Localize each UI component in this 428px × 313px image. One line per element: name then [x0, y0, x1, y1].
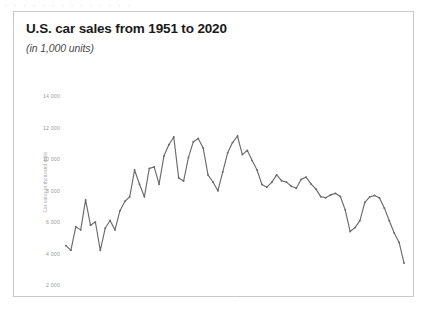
- x-tick-label: 1993: [260, 295, 273, 297]
- data-point: [197, 138, 199, 140]
- data-point: [281, 180, 283, 182]
- data-point: [261, 184, 263, 186]
- data-point: [65, 245, 67, 247]
- y-tick-label: 8 000: [46, 188, 60, 194]
- statistic-chart-card: U.S. car sales from 1951 to 2020 (in 1,0…: [13, 11, 414, 297]
- data-point: [143, 196, 145, 198]
- line-chart-svg: 2 0004 0006 0008 00010 00012 00014 000 1…: [14, 70, 413, 297]
- data-point: [398, 242, 400, 244]
- data-point: [325, 197, 327, 199]
- x-tick-label: 2014: [363, 295, 376, 297]
- data-point: [290, 185, 292, 187]
- x-tick-label: 2017: [377, 295, 390, 297]
- x-tick-label: 1984: [216, 295, 229, 297]
- x-tick-label: 1996: [274, 295, 287, 297]
- card-header: U.S. car sales from 1951 to 2020 (in 1,0…: [14, 12, 413, 54]
- x-tick-label: 1972: [157, 295, 170, 297]
- data-point: [271, 181, 273, 183]
- data-point: [153, 166, 155, 168]
- data-point: [163, 155, 165, 157]
- car-sales-line: [66, 136, 404, 263]
- data-point: [300, 179, 302, 181]
- x-tick-label: 1987: [230, 295, 243, 297]
- data-point: [334, 192, 336, 194]
- x-tick-label: 2020: [392, 295, 405, 297]
- data-point: [251, 160, 253, 162]
- x-tick-label: 1969: [142, 295, 155, 297]
- chart-plot-area: 2 0004 0006 0008 00010 00012 00014 000 1…: [14, 70, 413, 297]
- x-tick-label: 1978: [186, 295, 199, 297]
- data-point: [207, 174, 209, 176]
- data-point: [393, 232, 395, 234]
- data-point: [212, 181, 214, 183]
- data-point: [285, 181, 287, 183]
- x-tick-label: 1999: [289, 295, 302, 297]
- data-point: [124, 201, 126, 203]
- x-tick-label: 2002: [304, 295, 317, 297]
- data-point: [227, 152, 229, 154]
- y-axis-title: Car sales in thousand units: [43, 151, 48, 212]
- x-tick-label: 1951: [54, 295, 67, 297]
- data-point: [344, 209, 346, 211]
- x-tick-label: 2008: [333, 295, 346, 297]
- data-point: [178, 177, 180, 179]
- x-tick-label: 2011: [348, 295, 360, 297]
- data-point: [241, 154, 243, 156]
- top-cutoff-strip: · · · · · · · · · · · · · ·: [0, 0, 428, 10]
- data-point: [129, 196, 131, 198]
- data-point: [114, 229, 116, 231]
- x-tick-label: 1966: [127, 295, 140, 297]
- x-tick-label: 1957: [83, 295, 96, 297]
- data-point: [266, 186, 268, 188]
- x-tick-label: 1975: [172, 295, 185, 297]
- y-tick-label: 6 000: [46, 219, 60, 225]
- x-tick-label: 2005: [319, 295, 332, 297]
- y-tick-label: 14 000: [43, 93, 60, 99]
- data-point: [168, 144, 170, 146]
- data-point: [374, 194, 376, 196]
- data-point: [403, 262, 405, 264]
- data-point: [388, 220, 390, 222]
- data-point: [104, 227, 106, 229]
- data-point: [246, 149, 248, 151]
- data-point: [183, 180, 185, 182]
- car-sales-markers: [65, 135, 405, 264]
- data-point: [320, 196, 322, 198]
- data-point: [349, 231, 351, 233]
- data-point: [99, 249, 101, 251]
- data-point: [94, 221, 96, 223]
- data-point: [256, 169, 258, 171]
- data-point: [134, 169, 136, 171]
- data-point: [232, 142, 234, 144]
- x-tick-label: 1981: [201, 295, 214, 297]
- data-point: [109, 219, 111, 221]
- data-point: [188, 156, 190, 158]
- data-point: [330, 194, 332, 196]
- chart-subtitle: (in 1,000 units): [26, 42, 413, 54]
- data-point: [364, 202, 366, 204]
- data-point: [119, 210, 121, 212]
- data-point: [305, 176, 307, 178]
- x-tick-label: 1963: [113, 295, 126, 297]
- data-point: [192, 141, 194, 143]
- data-point: [85, 199, 87, 201]
- data-point: [315, 188, 317, 190]
- data-point: [90, 224, 92, 226]
- y-tick-label: 2 000: [46, 282, 60, 288]
- data-point: [70, 249, 72, 251]
- data-point: [75, 226, 77, 228]
- x-tick-label: 1960: [98, 295, 111, 297]
- data-point: [369, 196, 371, 198]
- data-point: [295, 187, 297, 189]
- y-tick-label: 4 000: [46, 251, 60, 257]
- data-point: [173, 136, 175, 138]
- data-point: [222, 171, 224, 173]
- data-point: [158, 183, 160, 185]
- x-tick-label: 1990: [245, 295, 258, 297]
- data-point: [202, 147, 204, 149]
- data-point: [148, 168, 150, 170]
- data-point: [276, 174, 278, 176]
- data-point: [80, 229, 82, 231]
- data-point: [310, 183, 312, 185]
- x-axis: 1951195419571960196319661969197219751978…: [24, 295, 405, 297]
